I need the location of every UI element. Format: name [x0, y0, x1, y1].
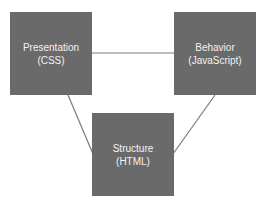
diagram-canvas: Presentation (CSS) Behavior (JavaScript)…	[0, 0, 265, 204]
node-behavior: Behavior (JavaScript)	[174, 12, 256, 95]
node-subtitle: (CSS)	[37, 54, 64, 67]
node-title: Behavior	[195, 41, 234, 54]
node-title: Structure	[113, 142, 154, 155]
node-subtitle: (JavaScript)	[188, 54, 241, 67]
node-structure: Structure (HTML)	[92, 113, 174, 196]
node-title: Presentation	[23, 41, 79, 54]
node-presentation: Presentation (CSS)	[10, 12, 92, 95]
node-subtitle: (HTML)	[116, 155, 150, 168]
edge-presentation-structure	[68, 95, 93, 154]
edge-behavior-structure	[173, 95, 215, 154]
